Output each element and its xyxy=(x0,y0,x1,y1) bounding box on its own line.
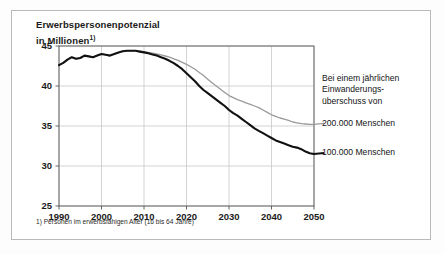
legend-header: Bei einem jährlichen Einwanderungs- über… xyxy=(322,73,440,107)
grid-lines xyxy=(59,46,314,206)
y-axis-tick-labels: 2530354045 xyxy=(41,40,52,211)
chart-card: Erwerbspersonenpotenzialin Millionen1) 2… xyxy=(11,10,431,240)
x-tick-label: 2030 xyxy=(218,211,239,222)
y-tick-label: 25 xyxy=(41,200,52,211)
x-tick-label: 2050 xyxy=(303,211,324,222)
y-tick-label: 40 xyxy=(41,80,52,91)
legend-header-line1: Bei einem jährlichen xyxy=(322,73,440,84)
legend-label-200k: 200.000 Menschen xyxy=(322,118,395,128)
legend-header-line3: überschuss von xyxy=(322,96,440,107)
x-tick-label: 2040 xyxy=(261,211,282,222)
legend-header-line2: Einwanderungs- xyxy=(322,84,440,95)
chart-footnote: 1) Personen im erwerbsfähigen Alter (16 … xyxy=(36,218,194,225)
y-tick-label: 45 xyxy=(41,40,52,51)
y-tick-label: 35 xyxy=(41,120,52,131)
chart-figure: Erwerbspersonenpotenzialin Millionen1) 2… xyxy=(0,0,445,254)
legend-label-100k: 100.000 Menschen xyxy=(322,147,395,157)
y-tick-label: 30 xyxy=(41,160,52,171)
